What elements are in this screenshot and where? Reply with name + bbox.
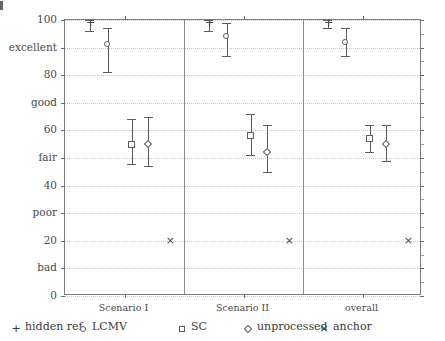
error-bar-cap-upper <box>144 117 153 118</box>
y-tick-right-minor <box>421 117 424 118</box>
x-tick-top <box>363 16 364 20</box>
error-bar-cap-upper <box>382 125 391 126</box>
error-bar-cap-upper <box>246 114 255 115</box>
legend-item-hidden-ref-[interactable]: +hidden ref. <box>10 316 86 336</box>
panel-divider <box>184 20 185 294</box>
error-bar-cap-lower <box>341 56 350 57</box>
y-tick-right <box>420 48 424 49</box>
error-bar-cap-lower <box>222 56 231 57</box>
error-bar-cap-lower <box>127 164 136 165</box>
cross-icon-glyph: × <box>319 322 328 335</box>
gridline <box>65 158 420 159</box>
y-tick-right <box>420 186 424 187</box>
cross-icon: × <box>318 317 330 336</box>
x-tick-bottom <box>125 294 126 298</box>
y-tick-label-bad: bad <box>0 262 57 272</box>
x-axis-label-scenario-2: Scenario II <box>193 302 293 313</box>
y-tick-right-minor <box>421 89 424 90</box>
diamond-icon-glyph <box>244 325 252 333</box>
gridline <box>65 130 420 131</box>
gridline <box>65 186 420 187</box>
y-tick-right-minor <box>421 34 424 35</box>
y-tick-right-minor <box>421 61 424 62</box>
diamond-icon <box>242 317 254 336</box>
error-bar-cap-upper <box>263 125 272 126</box>
diamond-marker <box>382 139 390 147</box>
error-bar <box>227 23 228 56</box>
y-tick-left <box>61 20 65 21</box>
x-tick-bottom <box>244 294 245 298</box>
error-bar-cap-lower <box>85 31 94 32</box>
y-tick-label-excellent: excellent <box>0 42 57 52</box>
plus-icon: + <box>10 317 22 336</box>
y-tick-right <box>420 241 424 242</box>
error-bar-cap-lower <box>365 152 374 153</box>
y-tick-right <box>420 75 424 76</box>
y-tick-label-poor: poor <box>0 207 57 217</box>
y-tick-right <box>420 158 424 159</box>
plus-marker: + <box>86 17 95 28</box>
y-tick-right-minor <box>421 199 424 200</box>
y-tick-right <box>420 268 424 269</box>
y-tick-left <box>61 158 65 159</box>
y-tick-left <box>61 268 65 269</box>
circle-marker <box>223 33 229 39</box>
edge-artifact <box>0 1 3 10</box>
error-bar-cap-lower <box>204 31 213 32</box>
y-tick-left <box>61 186 65 187</box>
y-tick-right <box>420 296 424 297</box>
legend-item-unprocessed[interactable]: unprocessed <box>242 316 328 336</box>
cross-marker: × <box>285 235 294 246</box>
y-tick-right-minor <box>421 282 424 283</box>
circle-icon <box>77 317 89 336</box>
circle-icon-glyph <box>80 326 86 332</box>
y-tick-right <box>420 130 424 131</box>
error-bar-cap-upper <box>127 119 136 120</box>
error-bar-cap-upper <box>222 23 231 24</box>
error-bar-cap-lower <box>144 166 153 167</box>
gridline <box>65 20 420 21</box>
x-tick-top <box>125 16 126 20</box>
gridline <box>65 103 420 104</box>
error-bar-cap-upper <box>341 28 350 29</box>
y-tick-label-60: 60 <box>0 124 57 134</box>
y-tick-right <box>420 213 424 214</box>
legend-item-anchor[interactable]: ×anchor <box>318 316 372 336</box>
diamond-marker <box>263 148 271 156</box>
plot-area: +++××× <box>64 19 421 295</box>
y-tick-right <box>420 103 424 104</box>
chart-canvas: 100excellent80good60fair40poor20bad0 +++… <box>0 0 445 341</box>
gridline <box>65 48 420 49</box>
legend-label: SC <box>191 320 207 333</box>
y-tick-right <box>420 20 424 21</box>
legend-item-lcmv[interactable]: LCMV <box>77 316 127 336</box>
x-tick-top <box>244 16 245 20</box>
cross-marker: × <box>166 235 175 246</box>
square-marker <box>247 132 254 139</box>
square-icon <box>176 317 188 336</box>
diamond-marker <box>144 139 152 147</box>
y-tick-left <box>61 48 65 49</box>
circle-marker <box>104 41 110 47</box>
gridline <box>65 213 420 214</box>
gridline <box>65 296 420 297</box>
square-icon-glyph <box>179 326 185 332</box>
y-tick-left <box>61 75 65 76</box>
y-tick-label-good: good <box>0 97 57 107</box>
y-tick-right-minor <box>421 255 424 256</box>
square-marker <box>128 141 135 148</box>
gridline <box>65 241 420 242</box>
y-tick-label-0: 0 <box>0 290 57 300</box>
plus-marker: + <box>205 17 214 28</box>
y-tick-label-100: 100 <box>0 14 57 24</box>
y-tick-label-fair: fair <box>0 152 57 162</box>
legend-item-sc[interactable]: SC <box>176 316 207 336</box>
error-bar-cap-lower <box>382 161 391 162</box>
gridline <box>65 268 420 269</box>
legend-label: anchor <box>333 320 372 333</box>
y-tick-left <box>61 296 65 297</box>
error-bar-cap-lower <box>246 155 255 156</box>
plus-icon-glyph: + <box>11 322 20 335</box>
y-tick-left <box>61 241 65 242</box>
chart-legend: +hidden ref.LCMVSCunprocessed×anchor <box>0 316 445 338</box>
